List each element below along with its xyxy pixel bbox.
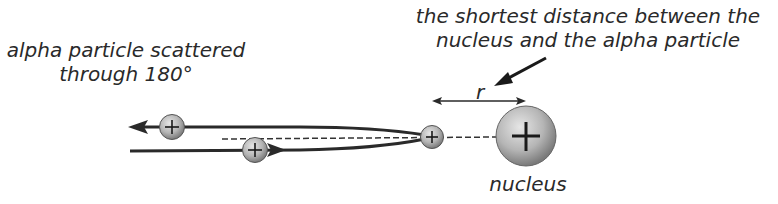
- scattered-label-line1: alpha particle scattered: [4, 38, 248, 62]
- dashed-axis-line: [222, 137, 500, 139]
- shortest-label-line2: nucleus and the alpha particle: [412, 28, 764, 52]
- pointer-arrow-icon: [494, 58, 546, 86]
- shortest-label-line1: the shortest distance between the: [412, 4, 764, 28]
- alpha-particle-returning: [160, 115, 185, 140]
- shortest-distance-label: the shortest distance between the nucleu…: [412, 4, 764, 52]
- scattered-label-line2: through 180°: [4, 62, 248, 86]
- nucleus: [496, 106, 556, 166]
- distance-r-label: r: [470, 80, 490, 104]
- scattered-label: alpha particle scattered through 180°: [4, 38, 248, 86]
- nucleus-label: nucleus: [486, 172, 570, 196]
- alpha-particle-incoming: [243, 138, 268, 163]
- alpha-particle-closest: [421, 126, 444, 149]
